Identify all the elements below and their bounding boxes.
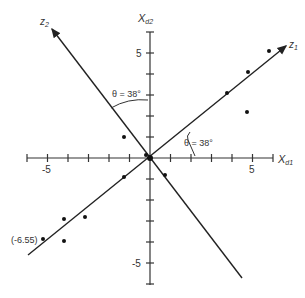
x-axis-label: Xd1 — [277, 153, 293, 166]
z2-label: z2 — [39, 16, 49, 28]
y-axis-label: Xd2 — [137, 12, 153, 25]
data-points — [41, 49, 271, 243]
angle-label-lower: θ = 38° — [184, 138, 213, 148]
tick-label-y-5: 5 — [136, 48, 142, 59]
z1-axis — [28, 46, 286, 255]
tick-label-x-5: 5 — [249, 164, 255, 175]
angle-arc-upper — [111, 100, 148, 108]
angle-label-upper: θ = 38° — [112, 89, 141, 99]
pca-rotation-diagram: Xd1 Xd2 z1 z2 θ = 38° θ = 38° (-6.55) 5 … — [0, 0, 305, 298]
tick-label-x-neg5: -5 — [42, 164, 51, 175]
tick-label-y-neg5: -5 — [132, 258, 141, 269]
point-annotation: (-6.55) — [11, 235, 38, 245]
z1-label: z1 — [288, 39, 298, 51]
